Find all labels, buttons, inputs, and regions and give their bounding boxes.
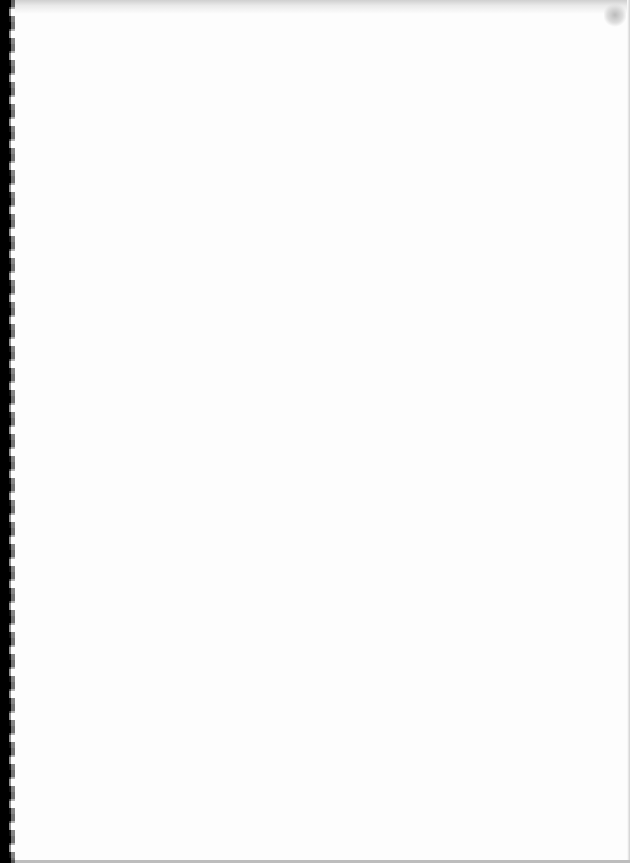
scan-top-edge	[11, 0, 630, 14]
blank-scanned-page	[0, 0, 630, 863]
binding-fray	[9, 0, 15, 863]
scan-corner-mark	[604, 2, 626, 28]
